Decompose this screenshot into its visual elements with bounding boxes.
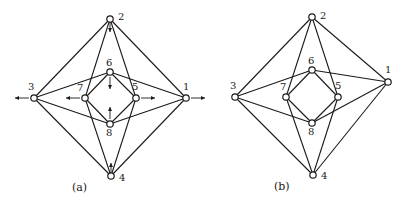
- node-label-5: 5: [132, 81, 138, 92]
- arrowhead-icon: [108, 85, 112, 89]
- edge-1-8: [110, 98, 186, 124]
- arrowhead-icon: [15, 96, 19, 100]
- node-6: [309, 67, 315, 73]
- edge-1-4: [313, 82, 388, 175]
- node-label-5: 5: [335, 80, 341, 91]
- node-2: [309, 14, 315, 20]
- edge-3-6: [34, 72, 110, 98]
- node-label-4: 4: [321, 170, 327, 181]
- node-label-8: 8: [106, 127, 112, 138]
- panel-b: 12345678(b): [230, 10, 391, 193]
- edge-1-4: [111, 98, 186, 176]
- edge-3-8: [34, 98, 110, 124]
- node-label-6: 6: [308, 55, 314, 66]
- node-label-4: 4: [119, 172, 125, 183]
- node-3: [31, 95, 37, 101]
- edge-1-6: [110, 72, 186, 98]
- node-label-6: 6: [106, 57, 112, 68]
- arrowhead-icon: [108, 28, 112, 32]
- edge-3-4: [34, 98, 111, 176]
- node-label-1: 1: [385, 64, 391, 75]
- node-label-2: 2: [320, 10, 326, 21]
- node-label-7: 7: [77, 82, 83, 93]
- arrowhead-icon: [151, 96, 155, 100]
- arrowhead-icon: [201, 96, 205, 100]
- panel-caption-a: (a): [72, 181, 87, 194]
- graph-figure: 12345678(a)12345678(b): [0, 0, 410, 203]
- edge-2-3: [235, 17, 312, 97]
- node-7: [82, 95, 88, 101]
- node-label-2: 2: [118, 11, 124, 22]
- node-label-3: 3: [230, 80, 236, 91]
- node-label-8: 8: [308, 126, 314, 137]
- edge-2-3: [34, 19, 110, 98]
- node-2: [107, 16, 113, 22]
- edge-3-4: [235, 97, 313, 175]
- node-4: [310, 172, 316, 178]
- edge-3-8: [235, 97, 312, 123]
- node-3: [232, 94, 238, 100]
- edge-4-5: [313, 97, 338, 175]
- edge-4-5: [111, 98, 136, 176]
- panel-caption-b: (b): [274, 180, 290, 193]
- arrowhead-icon: [66, 96, 70, 100]
- node-1: [183, 95, 189, 101]
- node-5: [335, 94, 341, 100]
- edge-2-1: [110, 19, 186, 98]
- node-5: [133, 95, 139, 101]
- node-4: [108, 173, 114, 179]
- arrowhead-icon: [108, 107, 112, 111]
- node-7: [283, 94, 289, 100]
- edge-1-8: [312, 82, 388, 123]
- arrowhead-icon: [109, 163, 113, 167]
- node-1: [385, 79, 391, 85]
- node-label-7: 7: [280, 81, 286, 92]
- panel-a: 12345678(a): [15, 11, 205, 194]
- edge-3-6: [235, 70, 312, 97]
- node-label-1: 1: [183, 81, 189, 92]
- node-6: [107, 69, 113, 75]
- node-label-3: 3: [28, 81, 34, 92]
